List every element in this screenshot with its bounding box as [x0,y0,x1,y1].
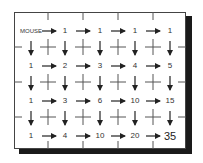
node-value: 1 [63,27,67,35]
node-value: 1 [29,132,33,140]
start-label-mouse: MOUSE [20,28,42,34]
final-value: 35 [164,131,176,142]
node-value: 4 [133,62,137,70]
grid-tick-bottom [48,141,153,149]
node-value: 10 [131,97,140,105]
node-value: 3 [98,62,102,70]
node-value: 15 [166,97,175,105]
arrows-down [31,41,170,125]
node-value: 1 [133,27,137,35]
node-value: 2 [63,62,67,70]
node-value: 3 [63,97,67,105]
node-value: 1 [168,27,172,35]
arrows-right [42,31,160,136]
grid-tick-top [48,12,153,20]
node-value: 1 [29,62,33,70]
node-value: 4 [63,132,67,140]
node-value: 1 [98,27,102,35]
node-value: 5 [168,62,172,70]
node-value: 10 [96,132,105,140]
node-value: 1 [29,97,33,105]
node-value: 20 [131,132,140,140]
node-value: 6 [98,97,102,105]
